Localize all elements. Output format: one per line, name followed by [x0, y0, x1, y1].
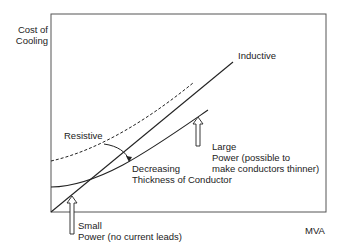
x-axis-label: MVA [305, 225, 325, 236]
large-label-line1: Large [212, 141, 319, 152]
small-label-line1: Small [78, 220, 182, 231]
small-power-label: Small Power (no current leads) [78, 220, 182, 242]
large-label-line2: Power (possible to [212, 152, 319, 163]
inductive-label: Inductive [238, 50, 276, 61]
large-label-line3: make conductors thinner) [212, 163, 319, 174]
decreasing-label-line2: Thickness of Conductor [132, 174, 232, 185]
large-power-arrow-icon [193, 117, 203, 146]
resistive-label: Resistive [64, 130, 103, 141]
y-axis-label-line2: Cooling [4, 35, 48, 46]
small-label-line2: Power (no current leads) [78, 231, 182, 242]
cooling-cost-diagram [0, 0, 344, 252]
y-axis-label: Cost of Cooling [4, 24, 48, 46]
resistive-dashed-curve [51, 83, 193, 161]
arrowhead-icon [126, 156, 132, 162]
y-axis-label-line1: Cost of [4, 24, 48, 35]
large-power-label: Large Power (possible to make conductors… [212, 141, 319, 174]
small-power-arrow-icon [67, 196, 77, 234]
